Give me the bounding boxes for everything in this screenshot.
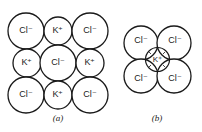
panel-a: Cl⁻ K⁺ Cl⁻ K⁺ Cl⁻ K⁺ Cl⁻ K⁺ Cl⁻ (a) <box>8 13 108 123</box>
ion-label: Cl⁻ <box>83 25 97 35</box>
ion-label: Cl⁻ <box>134 73 148 83</box>
ion-label: K⁺ <box>52 89 63 99</box>
caption-a: (a) <box>53 113 64 123</box>
ion-label: Cl⁻ <box>19 89 33 99</box>
ion-label: K⁺ <box>153 55 162 64</box>
ion-label: K⁺ <box>21 57 32 67</box>
ion-label: Cl⁻ <box>168 73 182 83</box>
ion-label: Cl⁻ <box>168 35 182 45</box>
ion-label: Cl⁻ <box>19 25 33 35</box>
ion-label: Cl⁻ <box>134 35 148 45</box>
ion-label: K⁺ <box>84 57 95 67</box>
ionic-packing-diagram: Cl⁻ K⁺ Cl⁻ K⁺ Cl⁻ K⁺ Cl⁻ K⁺ Cl⁻ (a) Cl⁻ … <box>0 0 202 132</box>
panel-b: Cl⁻ Cl⁻ Cl⁻ Cl⁻ K⁺ (b) <box>124 26 191 123</box>
ion-label: K⁺ <box>52 25 63 35</box>
ion-label: Cl⁻ <box>83 89 97 99</box>
ion-label: Cl⁻ <box>51 57 65 67</box>
caption-b: (b) <box>152 113 163 123</box>
